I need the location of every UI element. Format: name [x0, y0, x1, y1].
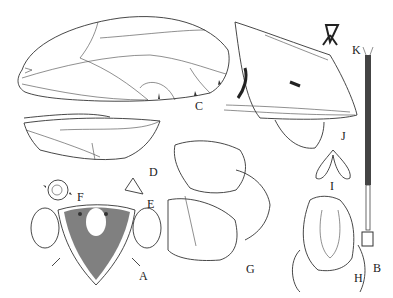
ocellus-drawing	[43, 180, 72, 200]
panel-label-d: D	[149, 166, 158, 178]
panel-label-a: A	[139, 270, 148, 282]
terminalia-drawing	[224, 22, 357, 148]
panel-label-e: E	[147, 198, 154, 210]
appendages-drawing	[316, 150, 350, 179]
panel-label-k: K	[352, 44, 361, 56]
panel-label-h: H	[354, 272, 363, 284]
forewing-drawing	[18, 17, 229, 102]
antenna-drawing	[362, 47, 373, 246]
process-drawing	[125, 178, 143, 194]
hindwing-drawing	[24, 114, 160, 160]
panel-label-f: F	[77, 191, 84, 203]
plate-drawings	[0, 0, 393, 298]
panel-label-j: J	[341, 130, 346, 142]
sclerite-drawing	[323, 25, 338, 45]
panel-label-g: G	[246, 263, 255, 275]
panel-label-c: C	[195, 100, 203, 112]
genital-capsule-drawing	[168, 141, 270, 261]
panel-label-b: B	[373, 262, 381, 274]
panel-label-i: I	[330, 180, 334, 192]
figure-plate: A B C D E F G H I J K	[0, 0, 393, 298]
